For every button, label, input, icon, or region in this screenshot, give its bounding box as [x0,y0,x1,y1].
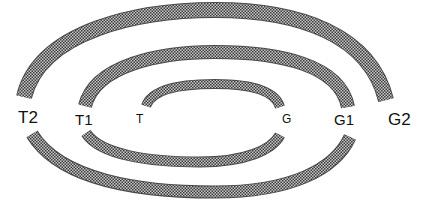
inner-top-arc [146,84,280,107]
label-g: G [282,113,291,125]
label-t: T [136,113,143,125]
middle-bottom-arc [86,133,280,162]
nested-arcs-diagram: T2 T1 T G G1 G2 [0,0,433,212]
label-g1: G1 [334,112,354,127]
label-t2: T2 [18,109,38,126]
arcs-graphic [0,0,433,212]
label-g2: G2 [388,111,411,128]
label-t1: T1 [75,112,93,127]
